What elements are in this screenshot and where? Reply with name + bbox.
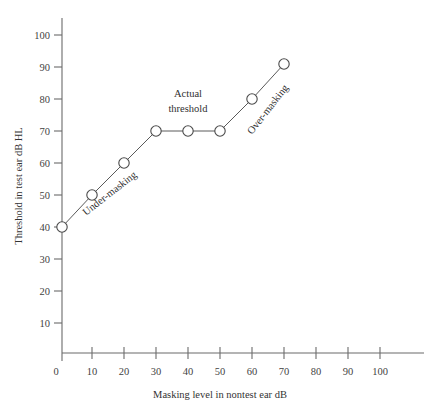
y-tick-label-40: 40 — [40, 222, 51, 233]
data-point-70-91[interactable] — [279, 59, 289, 69]
x-tick-label-40: 40 — [183, 366, 194, 377]
y-tick-label-80: 80 — [40, 94, 51, 105]
data-point-0-40[interactable] — [57, 222, 67, 232]
y-axis-title: Threshold in test ear dB HL — [13, 127, 24, 245]
x-tick-label-70: 70 — [279, 366, 290, 377]
x-axis-tick-labels: 0 10 20 30 40 50 60 70 80 90 100 — [53, 366, 388, 377]
y-axis-tick-labels: 100 90 80 70 60 50 40 30 20 10 — [34, 30, 50, 329]
y-tick-label-10: 10 — [40, 318, 51, 329]
y-tick-label-20: 20 — [40, 286, 51, 297]
annotation-actual-threshold-line1: Actual — [174, 88, 202, 99]
annotation-actual-threshold-line2: threshold — [168, 103, 208, 114]
x-tick-label-80: 80 — [311, 366, 322, 377]
chart-annotations: Under-masking Actual threshold Over-mask… — [80, 82, 290, 218]
x-tick-label-50: 50 — [215, 366, 226, 377]
x-tick-label-100: 100 — [372, 366, 388, 377]
data-point-60-80[interactable] — [247, 94, 257, 104]
y-tick-label-90: 90 — [40, 62, 51, 73]
y-tick-label-50: 50 — [40, 190, 51, 201]
x-tick-label-30: 30 — [151, 366, 162, 377]
y-tick-label-30: 30 — [40, 254, 51, 265]
chart-plot-area: 100 90 80 70 60 50 40 30 20 10 — [0, 0, 433, 413]
data-point-30-70[interactable] — [151, 126, 161, 136]
x-tick-label-20: 20 — [119, 366, 130, 377]
annotation-over-masking: Over-masking — [245, 82, 291, 137]
masking-function-chart: 100 90 80 70 60 50 40 30 20 10 — [0, 0, 433, 413]
x-tick-label-90: 90 — [343, 366, 354, 377]
y-tick-label-70: 70 — [40, 126, 51, 137]
x-tick-label-60: 60 — [247, 366, 258, 377]
x-tick-label-10: 10 — [87, 366, 98, 377]
data-point-50-70[interactable] — [215, 126, 225, 136]
y-tick-label-60: 60 — [40, 158, 51, 169]
data-point-40-70[interactable] — [183, 126, 193, 136]
data-point-20-60[interactable] — [119, 158, 129, 168]
y-tick-label-100: 100 — [34, 30, 50, 41]
x-axis-title: Masking level in nontest ear dB — [153, 389, 287, 400]
x-axis-ticks — [62, 347, 380, 361]
x-tick-label-0: 0 — [53, 366, 58, 377]
y-axis-ticks — [54, 35, 62, 323]
